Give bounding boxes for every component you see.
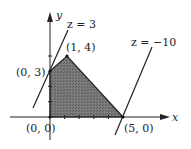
y-axis-label: y xyxy=(55,9,63,22)
x-axis-label: x xyxy=(172,111,179,124)
vertex-label-0-3: (0, 3) xyxy=(16,66,46,79)
vertex-label-1-4: (1, 4) xyxy=(66,41,96,54)
vertex-label-0-0: (0, 0) xyxy=(26,122,56,135)
x-axis-arrow-icon xyxy=(160,114,170,120)
feasible-region xyxy=(50,56,123,117)
vertex-label-5-0: (5, 0) xyxy=(124,122,154,135)
vertex-5-0 xyxy=(121,115,124,118)
z3-label: z = 3 xyxy=(67,18,96,31)
zm10-label: z = −10 xyxy=(131,36,176,49)
vertex-0-3 xyxy=(48,69,51,72)
y-axis-arrow-icon xyxy=(47,12,53,22)
diagram-canvas: y x z = 3 z = −10 (1, 4) (0, 3) (0, 0) (… xyxy=(0,0,191,149)
vertex-0-0 xyxy=(48,115,51,118)
vertex-1-4 xyxy=(65,54,68,57)
